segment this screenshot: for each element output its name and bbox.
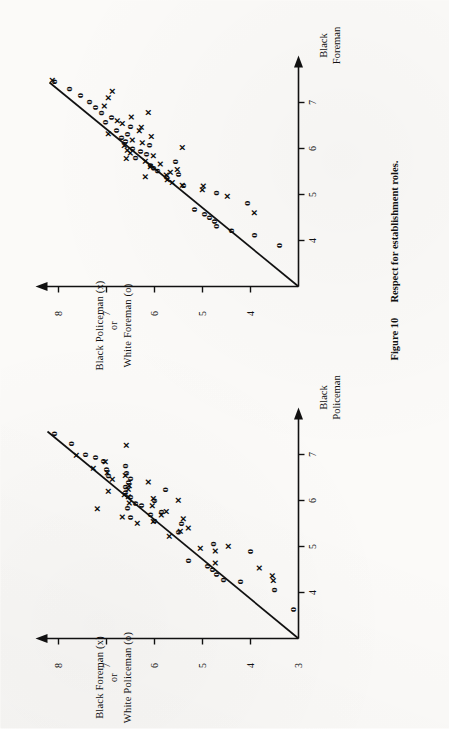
chart-panel-right: Black Policeman (x) or White Foreman (o) (22, 30, 352, 360)
left-x-title-line2: Policeman (329, 352, 342, 442)
right-x-tick-6: 6 (306, 141, 317, 155)
right-x-title-line2: Foreman (329, 0, 342, 90)
left-x-tick-6: 6 (306, 493, 317, 507)
left-y-tick-8: 8 (52, 658, 63, 672)
chart-panel-left: Black Foreman (x) or White Policeman (o) (22, 382, 352, 712)
right-x-title-line1: Black (316, 0, 329, 90)
right-y-axis-arrow (35, 282, 47, 291)
figure-caption-text: Respect for establishment roles. (388, 160, 399, 302)
right-y-tick-7: 7 (100, 306, 111, 320)
left-panel-x-axis-title: Black Policeman (316, 352, 342, 442)
right-reference-line (49, 82, 298, 286)
right-x-tick-7: 7 (306, 95, 317, 109)
left-y-tick-7: 7 (100, 658, 111, 672)
left-x-title-line1: Black (316, 352, 329, 442)
left-plot-svg (30, 398, 316, 656)
right-x-tick-4: 4 (306, 233, 317, 247)
right-y-tick-8: 8 (52, 306, 63, 320)
right-plot-area: 4 5 6 7 8 4 5 6 7 Black Foreman ××××××××… (30, 46, 298, 304)
left-x-tick-5: 5 (306, 539, 317, 553)
left-y-tick-4: 4 (244, 658, 255, 672)
left-plot-area: 3 4 5 6 7 8 4 5 6 7 Black Policeman ××××… (30, 398, 298, 656)
left-y-tick-3: 3 (292, 658, 303, 672)
figure-caption: Figure 10 Respect for establishment role… (388, 160, 399, 360)
left-x-tick-4: 4 (306, 585, 317, 599)
left-x-tick-7: 7 (306, 447, 317, 461)
right-y-tick-6: 6 (148, 306, 159, 320)
right-x-axis-arrow (294, 55, 303, 67)
left-y-tick-5: 5 (196, 658, 207, 672)
right-plot-svg (30, 46, 316, 304)
right-panel-x-axis-title: Black Foreman (316, 0, 342, 90)
right-y-tick-5: 5 (196, 306, 207, 320)
figure-number: Figure 10 (388, 317, 399, 360)
left-reference-line (47, 431, 298, 638)
left-y-tick-6: 6 (148, 658, 159, 672)
right-y-tick-4: 4 (244, 306, 255, 320)
right-x-tick-5: 5 (306, 187, 317, 201)
left-x-axis-arrow (294, 407, 303, 419)
left-y-axis-arrow (35, 634, 47, 643)
